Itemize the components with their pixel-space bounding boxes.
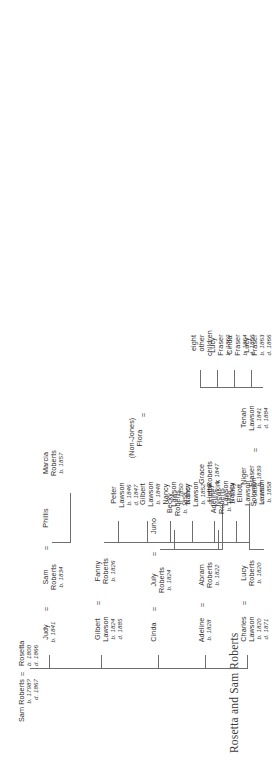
connector-root-drop bbox=[30, 668, 49, 669]
connector-stub-lucy-1869 bbox=[217, 370, 218, 388]
connector-spine-lawson-children bbox=[118, 542, 249, 543]
marriage-symbol: = bbox=[150, 607, 159, 611]
person-gilbert-lawson-jr: Gilbert Lawson b. 1848 bbox=[139, 471, 162, 517]
person-july-roberts: July Roberts b. 1824 bbox=[150, 559, 173, 601]
person-rosetta: Rosetta b. 1800 d. 1866 bbox=[18, 596, 40, 666]
person-judy: Judy b. 1841 bbox=[42, 612, 57, 652]
person-adeline: Adeline b. 1828 bbox=[198, 608, 213, 652]
person-death: d. 1884 bbox=[263, 394, 270, 442]
marriage-symbol: = bbox=[42, 546, 51, 550]
person-fanny-roberts: Fanny Roberts b. 1826 bbox=[94, 547, 117, 595]
connector-spine-fraser-children bbox=[200, 387, 251, 388]
marriage-symbol: = bbox=[198, 603, 207, 607]
person-death: d. 1866 bbox=[249, 323, 256, 367]
rotated-chart-stage: Rosetta and Sam Roberts Sam Roberts b. 1… bbox=[0, 0, 270, 769]
person-birth: b. 1828 bbox=[206, 608, 213, 652]
person-death: d. 1866 bbox=[266, 323, 270, 367]
person-marcia-roberts: Marcia Roberts b. 1857 bbox=[42, 437, 65, 489]
connector-drop-lawson-children bbox=[104, 542, 118, 543]
person-name-line1: Phillis bbox=[42, 496, 50, 540]
marriage-symbol: = bbox=[18, 672, 27, 676]
person-name-line1: Cinda bbox=[150, 612, 158, 652]
marriage-symbol: = bbox=[150, 552, 159, 556]
connector-stub-nancy-1852 bbox=[192, 521, 193, 543]
connector-drop-fraser-children bbox=[251, 387, 263, 388]
connector-drop-roberts-children bbox=[160, 549, 174, 550]
page-title: Rosetta and Sam Roberts bbox=[228, 632, 240, 753]
person-becky-roberts: Becky Roberts b. 1858 bbox=[166, 480, 189, 526]
connector-stub-gilbert-jr bbox=[147, 521, 148, 543]
person-death: d. 1867 bbox=[33, 679, 40, 757]
person-charles-lawson: Charles Lawson b. 1820 d. 1871 bbox=[240, 606, 270, 652]
person-birth: b. 1869 bbox=[225, 323, 232, 367]
marriage-symbol: = bbox=[139, 413, 148, 417]
connector-stub-adeline-roberts bbox=[218, 530, 219, 550]
person-name-line3: children bbox=[206, 319, 214, 367]
person-birth: b. 1822 bbox=[214, 553, 221, 597]
person-gilbert-lawson-sr: Gilbert Lawson b. 1824 d. 1885 bbox=[94, 606, 124, 652]
connector-stub-cinda-fraser bbox=[234, 370, 235, 388]
marriage-symbol: = bbox=[240, 601, 249, 605]
connector-drop-tenah bbox=[250, 549, 264, 550]
person-birth: b. 1841 bbox=[50, 612, 57, 652]
person-sam-roberts-sr: Sam Roberts b. 1798? d. 1867 bbox=[18, 679, 40, 757]
connector-stub-nancy-elliott bbox=[236, 521, 237, 543]
person-cinda: Cinda bbox=[150, 612, 158, 652]
person-lucy-roberts: Lucy Roberts b. 1820 bbox=[240, 551, 263, 595]
person-grace-roberts: Grace Roberts b. 1847 bbox=[198, 449, 221, 499]
person-birth: b. 1858 bbox=[182, 480, 189, 526]
person-abram-roberts: Abram Roberts b. 1822 bbox=[198, 553, 221, 597]
person-niger-fraser: Niger Fraser b. 1839 bbox=[240, 453, 263, 499]
connector-stub-peter bbox=[118, 521, 119, 543]
person-birth: b. 1826 bbox=[110, 547, 117, 595]
marriage-symbol: = bbox=[251, 448, 260, 452]
marriage-symbol: = bbox=[42, 607, 51, 611]
person-birth: b. 1839 bbox=[256, 453, 263, 499]
connector-stub-eight-other bbox=[200, 370, 201, 388]
connector-stub-gilbert bbox=[101, 655, 102, 669]
person-death: d. 1885 bbox=[117, 606, 124, 652]
person-peter-lawson: Peter Lawson b. 1846 d. 1847 bbox=[110, 473, 140, 517]
connector-bar-tenah bbox=[249, 504, 250, 550]
person-birth: b. 1824 bbox=[166, 559, 173, 601]
person-birth: b. 1847 bbox=[214, 449, 221, 499]
person-tenah-lawson: Tenah Lawson b. 1841 d. 1884 bbox=[240, 394, 270, 442]
connector-stub-becky bbox=[174, 530, 175, 550]
person-birth: b. 1858 bbox=[266, 467, 270, 517]
person-death: d. 1871 bbox=[263, 606, 270, 652]
marriage-symbol: = bbox=[94, 601, 103, 605]
person-phillis: Phillis bbox=[42, 496, 50, 540]
person-birth: b. 1834 bbox=[58, 553, 65, 601]
person-birth: b. 1857 bbox=[58, 437, 65, 489]
connector-stub-july bbox=[158, 655, 159, 669]
connector-spine-roberts-children bbox=[174, 549, 218, 550]
connector-stub-adeline bbox=[205, 655, 206, 669]
connector-stub-judy bbox=[49, 655, 50, 669]
connector-bar-marcia bbox=[70, 493, 71, 543]
person-death: d. 1866 bbox=[33, 596, 40, 666]
connector-stub-lucy bbox=[247, 655, 248, 669]
family-tree-diagram: Rosetta and Sam Roberts Sam Roberts b. 1… bbox=[0, 0, 270, 769]
person-sam-roberts-jr: Sam Roberts b. 1834 bbox=[42, 553, 65, 601]
connector-stub-lucy-1863 bbox=[251, 370, 252, 388]
person-birth: b. 1820 bbox=[256, 551, 263, 595]
person-eight-other-children: eight other children bbox=[190, 319, 214, 367]
connector-sibling-spine bbox=[49, 668, 248, 669]
person-birth: b. 1856 bbox=[226, 476, 233, 526]
connector-drop-marcia bbox=[52, 542, 70, 543]
